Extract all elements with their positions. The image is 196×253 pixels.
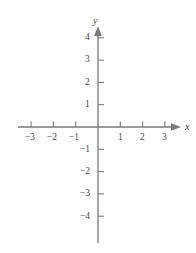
y-axis-arrowhead — [94, 26, 102, 36]
x-tick-label--2: −2 — [47, 133, 57, 143]
x-tick-label-2: 2 — [140, 133, 145, 143]
x-tick-label-1: 1 — [118, 133, 123, 143]
y-tick-label-3: 3 — [85, 55, 90, 65]
coordinate-plane-figure: y x −3 −2 −1 1 2 3 4 3 2 1 −1 −2 −3 −4 — [0, 0, 196, 253]
x-tick-label--3: −3 — [25, 133, 35, 143]
y-tick-label-4: 4 — [85, 33, 90, 43]
x-axis-arrowhead — [171, 123, 181, 131]
y-axis-label: y — [93, 16, 97, 26]
y-axis-group — [94, 26, 104, 243]
x-tick-label-3: 3 — [162, 133, 167, 143]
x-tick-label--1: −1 — [69, 133, 79, 143]
y-tick-label--4: −4 — [80, 212, 90, 222]
axes-graphic — [0, 0, 196, 253]
y-tick-label-2: 2 — [85, 78, 90, 88]
x-axis-label: x — [185, 122, 189, 132]
y-tick-label--2: −2 — [80, 167, 90, 177]
y-tick-label--3: −3 — [80, 189, 90, 199]
x-axis-group — [18, 122, 181, 131]
y-tick-label--1: −1 — [80, 145, 90, 155]
y-tick-label-1: 1 — [85, 100, 90, 110]
